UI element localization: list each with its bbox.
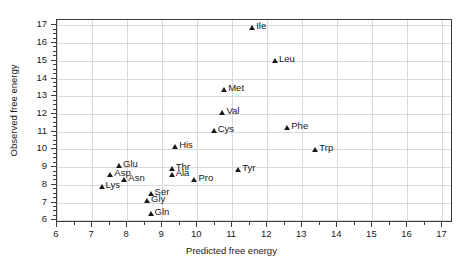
x-axis-minor-tick [144, 222, 145, 225]
x-axis-minor-tick [319, 222, 320, 225]
y-axis-tick-label: 10 [25, 142, 47, 153]
y-axis-tick [51, 131, 56, 132]
x-axis-tick-label: 17 [428, 228, 454, 239]
triangle-marker-icon [191, 177, 197, 182]
gridline-vertical [337, 20, 338, 221]
gridline-horizontal [57, 61, 451, 62]
x-axis-tick [371, 222, 372, 227]
y-axis-tick [51, 113, 56, 114]
y-axis-minor-tick [53, 46, 56, 47]
gridline-vertical [232, 20, 233, 221]
x-axis-minor-tick [109, 222, 110, 225]
y-axis-minor-tick [53, 179, 56, 180]
data-point-label: Gly [151, 193, 165, 204]
x-axis-minor-tick [424, 222, 425, 225]
y-axis-tick [51, 78, 56, 79]
data-point-label: Asn [128, 172, 144, 183]
plot-area [56, 19, 452, 222]
y-axis-minor-tick [53, 126, 56, 127]
x-axis-tick [161, 222, 162, 227]
gridline-horizontal [57, 79, 451, 80]
y-axis-minor-tick [53, 104, 56, 105]
y-axis-tick-label: 6 [25, 213, 47, 224]
y-axis-minor-tick [53, 86, 56, 87]
y-axis-tick-label: 12 [25, 107, 47, 118]
x-axis-tick [231, 222, 232, 227]
gridline-horizontal [57, 220, 451, 221]
gridline-horizontal [57, 43, 451, 44]
x-axis-minor-tick [284, 222, 285, 225]
data-point-label: Val [226, 105, 239, 116]
y-axis-minor-tick [53, 140, 56, 141]
x-axis-tick-label: 10 [183, 228, 209, 239]
x-axis-minor-tick [389, 222, 390, 225]
y-axis-tick-label: 16 [25, 36, 47, 47]
y-axis-tick-label: 15 [25, 54, 47, 65]
y-axis-minor-tick [53, 188, 56, 189]
y-axis-minor-tick [53, 197, 56, 198]
gridline-vertical [127, 20, 128, 221]
data-point-label: Pro [198, 172, 213, 183]
data-point-label: Lys [106, 179, 120, 190]
gridline-horizontal [57, 149, 451, 150]
y-axis-minor-tick [53, 122, 56, 123]
gridline-horizontal [57, 114, 451, 115]
x-axis-tick-label: 15 [358, 228, 384, 239]
triangle-marker-icon [169, 172, 175, 177]
gridline-vertical [57, 20, 58, 221]
gridline-vertical [197, 20, 198, 221]
x-axis-minor-tick [249, 222, 250, 225]
y-axis-tick-label: 17 [25, 18, 47, 29]
gridline-vertical [267, 20, 268, 221]
y-axis-minor-tick [53, 82, 56, 83]
x-axis-minor-tick [214, 222, 215, 225]
y-axis-minor-tick [53, 91, 56, 92]
triangle-marker-icon [144, 198, 150, 203]
x-axis-tick [266, 222, 267, 227]
y-axis-minor-tick [53, 162, 56, 163]
y-axis-minor-tick [53, 100, 56, 101]
y-axis-minor-tick [53, 38, 56, 39]
data-point-label: Trp [319, 142, 333, 153]
y-axis-minor-tick [53, 73, 56, 74]
gridline-vertical [407, 20, 408, 221]
triangle-marker-icon [249, 25, 255, 30]
x-axis-tick [406, 222, 407, 227]
y-axis-minor-tick [53, 51, 56, 52]
y-axis-tick-label: 9 [25, 160, 47, 171]
x-axis-tick [336, 222, 337, 227]
y-axis-minor-tick [53, 157, 56, 158]
y-axis-tick-label: 14 [25, 72, 47, 83]
y-axis-minor-tick [53, 109, 56, 110]
y-axis-minor-tick [53, 215, 56, 216]
y-axis-tick [51, 148, 56, 149]
y-axis-minor-tick [53, 69, 56, 70]
y-axis-tick [51, 24, 56, 25]
gridline-horizontal [57, 96, 451, 97]
y-axis-tick [51, 60, 56, 61]
y-axis-minor-tick [53, 117, 56, 118]
gridline-horizontal [57, 203, 451, 204]
y-axis-minor-tick [53, 144, 56, 145]
gridline-vertical [442, 20, 443, 221]
y-axis-minor-tick [53, 175, 56, 176]
y-axis-minor-tick [53, 171, 56, 172]
x-axis-tick-label: 16 [393, 228, 419, 239]
x-axis-tick [56, 222, 57, 227]
x-axis-title: Predicted free energy [0, 245, 463, 256]
triangle-marker-icon [221, 87, 227, 92]
x-axis-minor-tick [354, 222, 355, 225]
data-point-label: Met [228, 82, 244, 93]
triangle-marker-icon [235, 167, 241, 172]
triangle-marker-icon [312, 147, 318, 152]
x-axis-tick [126, 222, 127, 227]
y-axis-minor-tick [53, 135, 56, 136]
y-axis-minor-tick [53, 33, 56, 34]
y-axis-minor-tick [53, 29, 56, 30]
triangle-marker-icon [148, 211, 154, 216]
x-axis-tick-label: 7 [78, 228, 104, 239]
x-axis-tick-label: 9 [148, 228, 174, 239]
x-axis-tick-label: 8 [113, 228, 139, 239]
y-axis-title: Observed free energy [8, 36, 19, 186]
triangle-marker-icon [284, 125, 290, 130]
